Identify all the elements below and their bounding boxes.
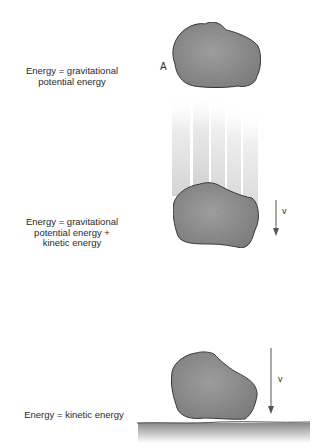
energy-label-top-line-2: potential energy	[12, 77, 132, 88]
point-label-a: A	[160, 61, 167, 72]
velocity-label-bottom: v	[278, 374, 283, 384]
rock-bottom	[171, 352, 257, 419]
velocity-label-middle: v	[282, 206, 287, 216]
energy-label-bottom: Energy = kinetic energy	[14, 410, 134, 421]
energy-label-middle: Energy = gravitational potential energy …	[12, 217, 132, 249]
energy-label-middle-line-3: kinetic energy	[12, 238, 132, 249]
energy-label-top: Energy = gravitational potential energy	[12, 66, 132, 87]
energy-label-middle-line-1: Energy = gravitational	[12, 217, 132, 228]
energy-label-top-line-1: Energy = gravitational	[12, 66, 132, 77]
rock-top	[173, 22, 261, 88]
velocity-arrow-middle	[273, 200, 279, 236]
ground	[137, 422, 310, 443]
velocity-arrow-bottom	[268, 348, 274, 414]
energy-label-bottom-line-1: Energy = kinetic energy	[14, 410, 134, 421]
